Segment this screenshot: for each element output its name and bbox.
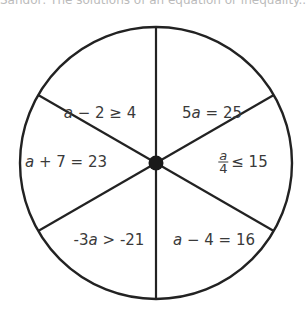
fraction-denominator: 4 — [219, 163, 227, 175]
expression-rest: > -21 — [98, 231, 145, 249]
wheel-hub — [149, 156, 164, 171]
variable: a — [173, 231, 182, 249]
expression-rest: ≤ 15 — [231, 153, 267, 171]
sector-top-left-equation: a − 2 ≥ 4 — [64, 104, 137, 122]
spoke-lower-left — [38, 163, 156, 231]
expression-rest: + 7 = 23 — [34, 153, 107, 171]
variable: a — [192, 104, 201, 122]
fraction: a 4 — [218, 150, 228, 175]
sector-right-inequality: a 4 ≤ 15 — [218, 150, 267, 175]
expression-rest: = 25 — [201, 104, 242, 122]
sector-top-right-equation: 5a = 25 — [182, 104, 242, 122]
expression-rest: − 4 = 16 — [182, 231, 255, 249]
variable: a — [89, 231, 98, 249]
sector-bottom-left-inequality: -3a > -21 — [74, 231, 145, 249]
sector-bottom-right-equation: a − 4 = 16 — [173, 231, 255, 249]
variable: a — [64, 104, 73, 122]
coefficient: -3 — [74, 231, 89, 249]
sector-left-equation: a + 7 = 23 — [25, 153, 107, 171]
variable: a — [25, 153, 34, 171]
expression-rest: − 2 ≥ 4 — [73, 104, 136, 122]
coefficient: 5 — [182, 104, 192, 122]
